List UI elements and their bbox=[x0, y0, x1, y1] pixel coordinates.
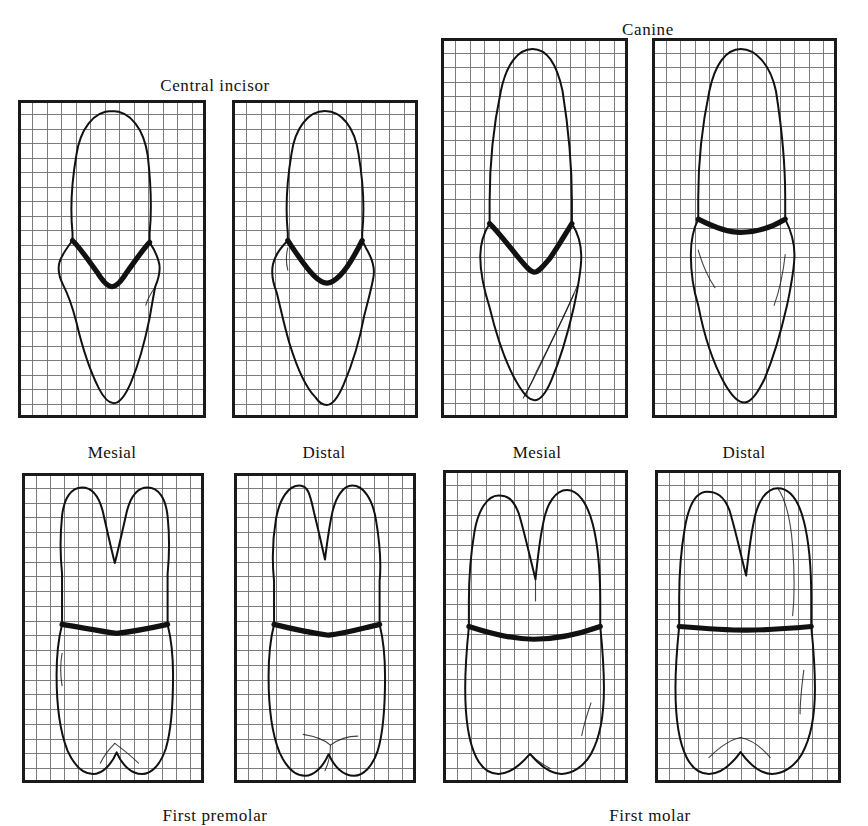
cemento-enamel-junction-line bbox=[679, 627, 811, 631]
tooth-panel-first-molar-mesial bbox=[443, 470, 628, 783]
view-label-central-incisor-distal: Distal bbox=[302, 443, 345, 463]
tooth-panel-first-molar-distal bbox=[655, 470, 841, 783]
grid-border bbox=[234, 102, 417, 417]
cemento-enamel-junction-line bbox=[288, 241, 362, 284]
tooth-body-outline bbox=[269, 486, 385, 776]
tooth-outline-canine-mesial bbox=[480, 49, 581, 400]
tooth-outline-central-incisor-distal bbox=[272, 111, 374, 405]
grid-lines bbox=[442, 39, 627, 417]
tooth-panel-first-premolar-mesial bbox=[22, 473, 204, 783]
cemento-enamel-junction-line bbox=[698, 219, 785, 232]
tooth-panel-canine-distal bbox=[652, 38, 837, 418]
tooth-body-outline bbox=[480, 49, 581, 400]
group-title-canine: Canine bbox=[622, 20, 674, 40]
tooth-panel-central-incisor-mesial bbox=[18, 100, 206, 418]
tooth-detail-line-2 bbox=[582, 703, 591, 736]
tooth-panel-canine-mesial bbox=[441, 38, 628, 418]
cemento-enamel-junction-line bbox=[469, 627, 600, 640]
group-title-first-molar: First molar bbox=[609, 806, 691, 826]
view-label-canine-mesial: Mesial bbox=[513, 443, 562, 463]
view-label-canine-distal: Distal bbox=[722, 443, 765, 463]
group-title-central-incisor: Central incisor bbox=[160, 76, 270, 96]
tooth-detail-line-2 bbox=[774, 255, 785, 306]
cemento-enamel-junction-line bbox=[62, 624, 168, 633]
tooth-detail-line-3 bbox=[61, 653, 62, 685]
view-label-central-incisor-mesial: Mesial bbox=[88, 443, 137, 463]
grid-lines bbox=[653, 39, 836, 417]
tooth-panel-first-premolar-distal bbox=[234, 473, 416, 783]
tooth-body-outline bbox=[59, 111, 160, 403]
cemento-enamel-junction-line bbox=[73, 241, 150, 287]
grid-lines bbox=[23, 474, 203, 782]
tooth-detail-line-3 bbox=[778, 488, 794, 615]
group-title-first-premolar: First premolar bbox=[162, 806, 267, 826]
tooth-outline-first-molar-mesial bbox=[465, 490, 604, 774]
cemento-enamel-junction-line bbox=[490, 224, 572, 273]
tooth-detail-line-1 bbox=[286, 248, 287, 270]
grid-lines bbox=[233, 101, 417, 417]
tooth-outline-first-molar-distal bbox=[675, 488, 815, 774]
tooth-outline-central-incisor-mesial bbox=[59, 111, 160, 403]
tooth-detail-line-1 bbox=[698, 250, 715, 288]
tooth-outline-first-premolar-distal bbox=[269, 486, 385, 776]
tooth-outline-first-premolar-mesial bbox=[57, 487, 173, 774]
tooth-detail-line-3 bbox=[530, 754, 550, 769]
tooth-detail-line-2 bbox=[800, 670, 804, 714]
grid-lines bbox=[235, 474, 415, 782]
cemento-enamel-junction-line bbox=[274, 624, 380, 635]
tooth-outline-canine-distal bbox=[691, 49, 795, 402]
tooth-panel-central-incisor-distal bbox=[232, 100, 418, 418]
grid-lines bbox=[19, 101, 205, 417]
tooth-body-outline bbox=[272, 111, 374, 405]
figure-root: Central incisorCanineFirst premolarFirst… bbox=[0, 0, 868, 826]
